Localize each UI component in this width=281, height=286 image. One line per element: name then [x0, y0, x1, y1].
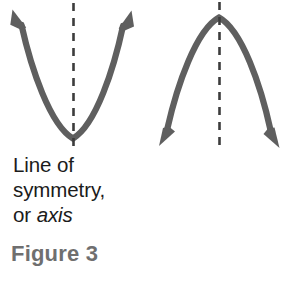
arrow-down-left-icon [159, 126, 175, 146]
graphics-area [0, 0, 281, 152]
caption-line-1: Line of [13, 152, 163, 177]
parabola-diagram-svg [0, 0, 281, 152]
figure-number-label: Figure 3 [11, 241, 98, 267]
arrow-down-right-icon [264, 128, 280, 149]
arrow-up-right-icon [119, 11, 134, 32]
downward-parabola-group [159, 2, 280, 148]
caption-block: Line of symmetry, or axis [13, 152, 163, 227]
caption-line-3-emphasis: axis [37, 203, 73, 226]
figure-3-illustration: Line of symmetry, or axis Figure 3 [0, 0, 281, 286]
caption-line-2: symmetry, [13, 177, 163, 202]
caption-line-3-prefix: or [13, 203, 37, 226]
upward-parabola-group [10, 3, 134, 149]
arrow-up-left-icon [10, 10, 26, 30]
caption-line-3: or axis [13, 202, 163, 227]
